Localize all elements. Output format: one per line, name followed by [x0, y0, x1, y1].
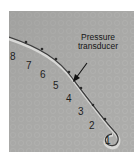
pressure-transducer-label: Pressure transducer: [67, 33, 129, 51]
catheter-image: Pressure transducer 8 7 6 5 4 3 2 1: [9, 11, 134, 152]
sensor-label-6: 6: [40, 70, 46, 80]
sensor-label-5: 5: [53, 81, 59, 91]
sensor-label-8: 8: [10, 52, 16, 62]
sensor-label-4: 4: [66, 94, 72, 104]
sensor-label-7: 7: [26, 61, 32, 71]
sensor-label-1: 1: [105, 136, 111, 146]
sensor-label-3: 3: [78, 107, 84, 117]
label-line-2: transducer: [67, 42, 129, 51]
sensor-label-2: 2: [89, 121, 95, 131]
